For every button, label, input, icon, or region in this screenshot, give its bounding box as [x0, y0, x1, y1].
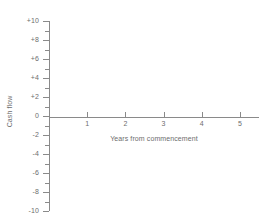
y-tick-major: [43, 154, 49, 155]
y-tick-label-wrap: -8: [11, 188, 39, 196]
y-tick-label: -2: [13, 131, 39, 138]
y-tick-label: -10: [13, 207, 39, 214]
x-tick: [240, 112, 241, 117]
y-tick-minor: [45, 31, 49, 32]
y-tick-label: +8: [13, 36, 39, 43]
x-axis-title: Years from commencement: [49, 135, 259, 142]
x-tick: [87, 112, 88, 117]
y-tick-major: [43, 211, 49, 212]
y-tick-minor: [45, 69, 49, 70]
y-tick-label: +2: [13, 93, 39, 100]
y-tick-label: 0: [13, 112, 39, 119]
y-tick-major: [43, 173, 49, 174]
y-tick-minor: [45, 164, 49, 165]
y-tick-major: [43, 59, 49, 60]
x-axis-line: [49, 117, 259, 118]
y-tick-label-wrap: 0: [11, 112, 39, 120]
y-tick-major: [43, 116, 49, 117]
y-tick-minor: [45, 202, 49, 203]
y-axis-title: Cash flow: [6, 76, 13, 148]
y-tick-label-wrap: +10: [11, 17, 39, 25]
y-tick-minor: [45, 126, 49, 127]
y-tick-label-wrap: +8: [11, 36, 39, 44]
y-tick-major: [43, 97, 49, 98]
y-tick-label-wrap: +4: [11, 74, 39, 82]
y-tick-label-wrap: +6: [11, 55, 39, 63]
y-tick-major: [43, 78, 49, 79]
y-tick-label: +6: [13, 55, 39, 62]
y-tick-label: +4: [13, 74, 39, 81]
y-tick-label: -8: [13, 188, 39, 195]
y-tick-minor: [45, 107, 49, 108]
y-tick-minor: [45, 183, 49, 184]
y-tick-major: [43, 21, 49, 22]
y-tick-major: [43, 40, 49, 41]
plot-area: [50, 21, 259, 211]
x-tick-label: 5: [230, 120, 250, 127]
x-tick: [202, 112, 203, 117]
x-tick-label: 2: [115, 120, 135, 127]
x-tick-label: 4: [192, 120, 212, 127]
y-tick-label-wrap: -4: [11, 150, 39, 158]
y-tick-label-wrap: -6: [11, 169, 39, 177]
y-tick-label: -6: [13, 169, 39, 176]
y-tick-minor: [45, 145, 49, 146]
x-tick-label: 3: [154, 120, 174, 127]
y-tick-label-wrap: -10: [11, 207, 39, 215]
y-tick-label-wrap: -2: [11, 131, 39, 139]
y-tick-label: -4: [13, 150, 39, 157]
y-axis-line: [49, 21, 50, 211]
x-tick-label: 1: [77, 120, 97, 127]
y-tick-minor: [45, 50, 49, 51]
y-tick-major: [43, 192, 49, 193]
cash-flow-chart: +10+8+6+4+20-2-4-6-8-10 12345 Years from…: [0, 0, 274, 222]
y-tick-minor: [45, 88, 49, 89]
y-tick-label: +10: [13, 17, 39, 24]
x-tick: [164, 112, 165, 117]
y-tick-label-wrap: +2: [11, 93, 39, 101]
x-tick: [125, 112, 126, 117]
